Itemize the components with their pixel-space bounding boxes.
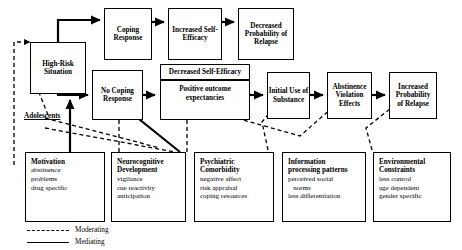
node-label: Relapse [254, 38, 278, 46]
node-label: Probability of [245, 30, 287, 38]
edge-moderating-left-to-highrisk [14, 42, 30, 165]
node-label: Decreased [250, 22, 281, 30]
factor-box-information-processing-patterns[interactable]: Information processing patterns perceive… [282, 152, 366, 222]
node-label: Violation [335, 91, 363, 99]
node-coping-response[interactable]: Coping Response [104, 8, 152, 60]
node-label: Response [114, 34, 143, 42]
node-increased-probability-of-relapse[interactable]: Increased Probability of Relapse [389, 72, 437, 119]
factor-heading: Development [117, 166, 181, 174]
factor-item: less control [379, 175, 446, 184]
node-label: Substance [273, 96, 304, 104]
factor-item: problems [31, 175, 100, 184]
node-decreased-self-efficacy-expectancies[interactable]: Decreased Self-Efficacy Positive outcome… [160, 64, 250, 120]
factor-heading: processing patterns [288, 166, 361, 174]
node-no-coping-response[interactable]: No Coping Response [92, 70, 143, 120]
factor-heading: Environmental [379, 158, 446, 166]
factor-box-motivation[interactable]: Motivation abstinence problems drug spec… [25, 152, 105, 222]
node-decreased-probability-of-relapse[interactable]: Decreased Probability of Relapse [238, 8, 294, 60]
factor-heading: Motivation [31, 158, 100, 166]
dashed-line-icon [27, 230, 69, 231]
factor-box-environmental-constraints[interactable]: Environmental Constraints less control a… [373, 152, 451, 222]
factor-heading: Psychiatric [200, 158, 269, 166]
factor-item: coping resources [200, 192, 269, 201]
node-initial-use-of-substance[interactable]: Initial Use of Substance [267, 72, 310, 119]
node-label: Increased [398, 83, 428, 91]
legend-label: Mediating [75, 238, 105, 246]
expectancies-line-2: expectancies [186, 94, 224, 102]
factor-heading: Neurocognitive [117, 158, 181, 166]
factor-box-neurocognitive-development[interactable]: Neurocognitive Development vigilance cue… [111, 152, 186, 222]
expectancies-line-1: Positive outcome [179, 85, 231, 93]
factor-item: gender specific [379, 192, 446, 201]
node-abstinence-violation-effects[interactable]: Abstinence Violation Effects [327, 72, 372, 119]
factor-item: abstinence [31, 166, 100, 175]
node-label: Increased Self- [172, 26, 218, 34]
factor-item: less differentiation [288, 192, 361, 201]
node-label: No Coping [101, 87, 134, 95]
node-label: Response [103, 95, 132, 103]
node-high-risk-situation[interactable]: High-Risk Situation [30, 42, 86, 94]
node-label-positive-outcome-expectancies: Positive outcome expectancies [161, 81, 249, 104]
node-label: Efficacy [182, 34, 207, 42]
node-label: High-Risk [42, 60, 74, 68]
node-label: Coping [117, 26, 139, 34]
factor-item: vigilance [117, 175, 181, 184]
factor-item: age dependent [379, 184, 446, 193]
node-label: Situation [44, 68, 72, 76]
factor-item: norms [288, 184, 361, 193]
diagram-canvas: High-Risk Situation Coping Response Incr… [0, 0, 462, 250]
edge-highrisk-to-coping [58, 20, 100, 42]
factor-item: cue reactivity [117, 184, 181, 193]
legend-row-moderating: Moderating [27, 226, 109, 234]
node-label: Initial Use of [269, 87, 309, 95]
factor-item: risk appraisal [200, 184, 269, 193]
factor-heading: Comorbidity [200, 166, 269, 174]
legend-row-mediating: Mediating [27, 238, 105, 246]
node-label: Effects [339, 100, 360, 108]
node-label: of Relapse [397, 100, 429, 108]
factor-box-psychiatric-comorbidity[interactable]: Psychiatric Comorbidity negative affect … [194, 152, 274, 222]
legend-label: Moderating [75, 226, 109, 234]
factor-item: perceived social [288, 175, 361, 184]
node-increased-self-efficacy[interactable]: Increased Self- Efficacy [168, 8, 222, 60]
node-label: Probability [396, 91, 431, 99]
factor-item: drug specific [31, 184, 100, 193]
factor-heading: Constraints [379, 166, 446, 174]
factor-item: negative affect [200, 175, 269, 184]
node-label: Abstinence [333, 83, 367, 91]
factor-item: anticipation [117, 192, 181, 201]
solid-line-icon [27, 242, 69, 243]
node-label-decreased-self-efficacy: Decreased Self-Efficacy [161, 65, 249, 81]
adolescents-label: Adolescents [24, 112, 60, 120]
factor-heading: Information [288, 158, 361, 166]
